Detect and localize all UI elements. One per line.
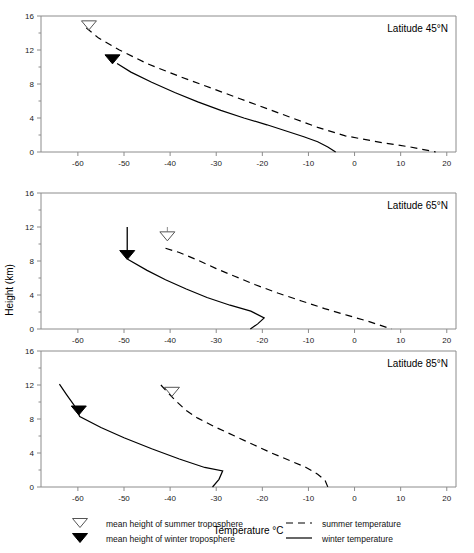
- y-tick-label: 16: [25, 12, 34, 21]
- x-tick-label: -10: [303, 159, 315, 168]
- y-tick-label: 8: [30, 80, 35, 89]
- marker-mean-height-winter: [120, 251, 135, 260]
- x-tick-label: -30: [210, 494, 222, 503]
- y-tick-label: 16: [25, 189, 34, 198]
- x-tick-label: -30: [210, 159, 222, 168]
- y-tick-label: 8: [30, 257, 35, 266]
- temperature-profile-chart: 0481216-60-50-40-30-20-1001020Latitude 4…: [0, 0, 474, 553]
- x-tick-label: 0: [352, 159, 357, 168]
- curve-winter: [128, 259, 264, 329]
- x-tick-label: 20: [442, 494, 451, 503]
- x-tick-label: 20: [442, 159, 451, 168]
- x-tick-label: 20: [442, 336, 451, 345]
- legend-marker-filled-triangle-down: [73, 534, 88, 543]
- x-tick-label: -60: [72, 159, 84, 168]
- x-tick-label: -50: [118, 336, 130, 345]
- x-tick-label: -40: [164, 494, 176, 503]
- x-tick-label: 0: [352, 336, 357, 345]
- y-tick-label: 0: [30, 483, 35, 492]
- curve-summer: [86, 28, 436, 152]
- x-tick-label: -30: [210, 336, 222, 345]
- figure-container: 0481216-60-50-40-30-20-1001020Latitude 4…: [0, 0, 474, 553]
- curve-summer: [161, 385, 328, 487]
- x-tick-label: -40: [164, 336, 176, 345]
- panel-title-lat45: Latitude 45°N: [387, 23, 448, 34]
- y-tick-label: 4: [30, 114, 35, 123]
- panel-lat85: 0481216-60-50-40-30-20-1001020Latitude 8…: [25, 347, 456, 503]
- y-tick-label: 0: [30, 325, 35, 334]
- y-axis-title: Height (km): [4, 264, 15, 316]
- legend-label-summer-temperature: summer temperature: [322, 519, 401, 529]
- x-tick-label: -60: [72, 494, 84, 503]
- y-tick-label: 12: [25, 223, 34, 232]
- y-tick-label: 16: [25, 347, 34, 356]
- panel-lat65: 0481216-60-50-40-30-20-1001020Latitude 6…: [25, 189, 456, 345]
- marker-mean-height-summer: [164, 387, 179, 396]
- x-tick-label: 10: [396, 159, 405, 168]
- y-tick-label: 4: [30, 291, 35, 300]
- marker-mean-height-summer: [160, 232, 175, 241]
- x-tick-label: -10: [303, 494, 315, 503]
- panel-lat45: 0481216-60-50-40-30-20-1001020Latitude 4…: [25, 12, 456, 168]
- legend-marker-open-triangle-down: [73, 519, 88, 528]
- panel-title-lat65: Latitude 65°N: [387, 200, 448, 211]
- x-tick-label: 0: [352, 494, 357, 503]
- legend-label-mean-height-summer: mean height of summer troposphere: [106, 519, 243, 529]
- x-tick-label: 10: [396, 494, 405, 503]
- panel-title-lat85: Latitude 85°N: [387, 358, 448, 369]
- y-tick-label: 12: [25, 381, 34, 390]
- legend-label-winter-temperature: winter temperature: [321, 534, 393, 544]
- x-tick-label: 10: [396, 336, 405, 345]
- curve-winter: [59, 384, 222, 487]
- marker-mean-height-winter: [71, 406, 86, 415]
- x-tick-label: -50: [118, 494, 130, 503]
- x-tick-label: -10: [303, 336, 315, 345]
- x-tick-label: -50: [118, 159, 130, 168]
- marker-mean-height-winter: [105, 55, 120, 64]
- y-tick-label: 4: [30, 449, 35, 458]
- legend-label-mean-height-winter: mean height of winter troposphere: [106, 534, 235, 544]
- y-tick-label: 8: [30, 415, 35, 424]
- x-tick-label: -20: [257, 336, 269, 345]
- x-tick-label: -60: [72, 336, 84, 345]
- y-tick-label: 0: [30, 148, 35, 157]
- curve-summer: [166, 248, 392, 329]
- y-tick-label: 12: [25, 46, 34, 55]
- x-tick-label: -20: [257, 494, 269, 503]
- x-tick-label: -40: [164, 159, 176, 168]
- x-tick-label: -20: [257, 159, 269, 168]
- marker-mean-height-summer: [81, 21, 96, 30]
- curve-winter: [117, 64, 336, 152]
